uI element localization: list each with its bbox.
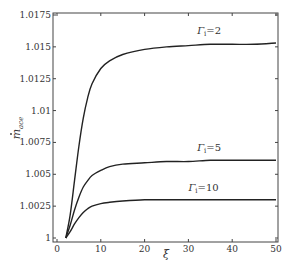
- data-series: [66, 43, 276, 238]
- y-tick-label: 1.0125: [20, 74, 52, 84]
- y-label-sub: ace: [17, 117, 25, 129]
- x-tick-label: 20: [139, 244, 151, 254]
- series-line: [66, 43, 276, 238]
- y-tick-label: 1.0175: [20, 10, 52, 20]
- y-label-main: m: [10, 129, 23, 139]
- y-tick-label: 1.015: [25, 42, 51, 52]
- y-tick-label: 1.0075: [20, 137, 52, 147]
- curve-labels: Γi=2Γi=5Γi=10: [187, 25, 221, 195]
- y-axis-label: mace: [10, 117, 25, 140]
- y-tick-label: 1.005: [25, 169, 51, 179]
- curve-label: Γi=10: [187, 182, 218, 195]
- y-tick-label: 1: [45, 233, 51, 243]
- x-tick-label: 40: [226, 244, 238, 254]
- y-tick-label: 1.0025: [20, 201, 52, 211]
- curve-label: Γi=2: [196, 25, 221, 38]
- x-axis-label: ξ: [163, 248, 170, 260]
- x-tick-label: 0: [54, 244, 60, 254]
- svg-text:mace: mace: [10, 117, 25, 140]
- x-tick-label: 30: [183, 244, 195, 254]
- x-tick-label: 10: [95, 244, 107, 254]
- line-chart: 01020304050 11.00251.0051.00751.011.0125…: [0, 0, 287, 260]
- y-label-dot: [10, 133, 12, 135]
- x-axis-ticks: 01020304050: [54, 13, 282, 254]
- series-line: [66, 200, 276, 238]
- y-tick-label: 1.01: [31, 106, 51, 116]
- curve-label: Γi=5: [196, 142, 221, 155]
- x-tick-label: 50: [270, 244, 282, 254]
